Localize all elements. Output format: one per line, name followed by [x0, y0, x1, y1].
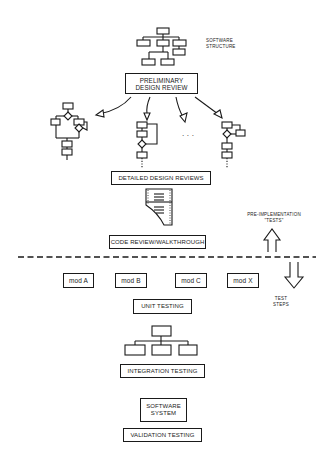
- flowchart-1-icon: [51, 103, 87, 160]
- module-box-c: mod C: [175, 273, 207, 288]
- software-system-box: SOFTWARE SYSTEM: [140, 398, 187, 422]
- integration-testing-box: INTEGRATION TESTING: [120, 364, 205, 378]
- diagram-lines: [0, 0, 332, 458]
- pre-implementation-note: PRE-IMPLEMENTATION "TESTS": [246, 212, 302, 223]
- module-box-x: mod X: [227, 273, 259, 288]
- unit-testing-box: UNIT TESTING: [133, 299, 192, 314]
- module-box-b: mod B: [115, 273, 147, 288]
- flowchart-3-icon: [222, 122, 245, 168]
- flowchart-2-icon: [137, 122, 157, 168]
- software-structure-note: SOFTWARE STRUCTURE: [206, 38, 240, 49]
- validation-testing-box: VALIDATION TESTING: [123, 428, 202, 442]
- code-review-box: CODE REVIEW/WALKTHROUGH: [109, 235, 206, 249]
- module-box-a: mod A: [63, 273, 94, 288]
- arrow-up-icon: [264, 229, 280, 252]
- test-steps-note: TEST STEPS: [270, 296, 292, 307]
- software-structure-icon: [137, 28, 186, 65]
- arrow-down-icon: [285, 262, 303, 288]
- code-listing-icon: [146, 189, 172, 225]
- preliminary-design-review-box: PRELIMINARY DESIGN REVIEW: [125, 73, 198, 94]
- ellipsis: . . .: [176, 131, 200, 137]
- detailed-design-reviews-box: DETAILED DESIGN REVIEWS: [111, 171, 211, 185]
- integration-structure-icon: [125, 326, 197, 355]
